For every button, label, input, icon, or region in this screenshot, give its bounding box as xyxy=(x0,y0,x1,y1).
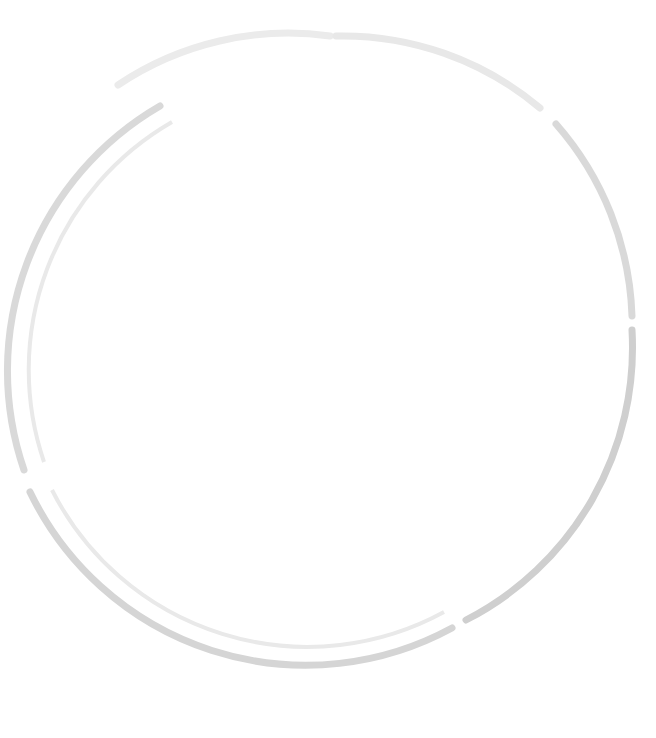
era-arcs xyxy=(0,0,656,738)
infographic-canvas xyxy=(0,0,656,738)
